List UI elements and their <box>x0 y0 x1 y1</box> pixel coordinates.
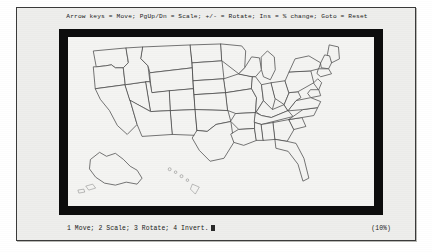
text-cursor <box>211 225 215 231</box>
mode-options-label: 1 Move; 2 Scale; 3 Rotate; 4 Invert. <box>67 225 209 232</box>
us-map-drawing <box>68 37 374 206</box>
map-viewport[interactable] <box>59 29 383 215</box>
application-root: Arrow keys = Move; PgUp/Dn = Scale; +/- … <box>0 0 432 252</box>
alaska-region <box>78 152 142 193</box>
window-frame: Arrow keys = Move; PgUp/Dn = Scale; +/- … <box>16 7 416 241</box>
hawaii-region <box>168 168 199 194</box>
keyboard-shortcut-hint: Arrow keys = Move; PgUp/Dn = Scale; +/- … <box>17 13 417 21</box>
map-canvas[interactable] <box>68 37 374 206</box>
scale-indicator: (10%) <box>371 224 391 234</box>
status-bar: 1 Move; 2 Scale; 3 Rotate; 4 Invert. (10… <box>17 224 417 234</box>
contiguous-us-states <box>94 44 340 181</box>
mode-options: 1 Move; 2 Scale; 3 Rotate; 4 Invert. <box>67 224 215 234</box>
